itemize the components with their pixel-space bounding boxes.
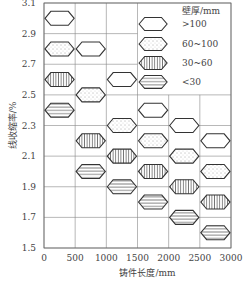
data-point-hexagon: [139, 195, 168, 209]
legend-swatch: [139, 38, 167, 51]
legend: 壁厚/mm>10060~10030~60<30: [139, 5, 220, 89]
data-point-hexagon: [76, 164, 105, 178]
y-tick-label: 1.5: [22, 243, 37, 253]
data-point-hexagon: [45, 103, 74, 117]
chart: 0500100015002000250030001.51.71.92.12.32…: [0, 0, 247, 286]
y-tick-label: 2.3: [22, 121, 37, 131]
data-point-hexagon: [76, 134, 105, 148]
y-tick-label: 2.5: [22, 90, 37, 100]
legend-swatch: [139, 18, 167, 31]
legend-label: 30~60: [182, 58, 213, 68]
data-point-hexagon: [139, 134, 168, 148]
legend-label: <30: [182, 77, 201, 87]
data-point-hexagon: [170, 210, 199, 224]
x-tick-label: 2500: [188, 253, 211, 263]
data-point-hexagon: [139, 164, 168, 178]
data-point-hexagon: [45, 11, 74, 25]
data-point-hexagon: [76, 42, 105, 56]
legend-swatch: [139, 76, 167, 89]
x-tick-label: 500: [67, 253, 84, 263]
y-axis-label: 线收缩率/%: [7, 101, 18, 149]
data-point-hexagon: [170, 180, 199, 194]
x-tick-label: 0: [41, 253, 47, 263]
data-point-hexagon: [201, 195, 230, 209]
legend-swatch: [139, 57, 167, 70]
data-point-hexagon: [170, 119, 199, 133]
data-point-hexagon: [107, 180, 136, 194]
data-point-hexagon: [76, 88, 105, 102]
y-tick-label: 1.9: [22, 182, 37, 192]
y-tick-label: 2.1: [22, 151, 36, 161]
data-point-hexagon: [201, 164, 230, 178]
x-tick-label: 2000: [157, 253, 180, 263]
legend-label: 60~100: [182, 39, 218, 49]
x-tick-label: 1000: [95, 253, 118, 263]
legend-label: >100: [182, 19, 207, 29]
x-axis-label: 铸件长度/mm: [119, 267, 176, 278]
data-point-hexagon: [170, 149, 199, 163]
data-point-hexagon: [107, 73, 136, 87]
data-point-hexagon: [107, 119, 136, 133]
legend-title: 壁厚/mm: [182, 5, 221, 16]
data-point-hexagon: [45, 73, 74, 87]
y-tick-label: 2.7: [22, 59, 37, 69]
data-point-hexagon: [201, 134, 230, 148]
y-tick-label: 1.7: [22, 212, 37, 222]
y-tick-label: 2.9: [22, 29, 37, 39]
data-point-hexagon: [139, 103, 168, 117]
data-point-hexagon: [45, 42, 74, 56]
data-point-hexagon: [201, 226, 230, 240]
x-tick-label: 3000: [220, 253, 243, 263]
x-tick-label: 1500: [126, 253, 149, 263]
y-tick-label: 3.1: [22, 0, 36, 8]
data-point-hexagon: [107, 149, 136, 163]
